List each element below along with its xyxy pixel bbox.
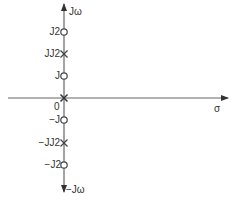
marker-label-neg-jj2: −JJ2 — [39, 138, 60, 148]
zero-marker-j — [61, 73, 67, 79]
zero-marker-j2 — [61, 29, 67, 35]
marker-label-j: J — [55, 71, 60, 81]
zero-marker-neg-j — [61, 117, 67, 123]
marker-label-j2: J2 — [49, 27, 60, 37]
pole-zero-diagram — [0, 0, 238, 207]
sigma-axis-label: σ — [214, 104, 220, 114]
marker-label-jj2: JJ2 — [44, 49, 60, 59]
marker-label-neg-j: −J — [49, 115, 60, 125]
zero-marker-neg-j2 — [61, 162, 67, 168]
jw-axis-top-label: Jω — [69, 7, 82, 17]
marker-label-neg-j2: −J2 — [45, 160, 61, 170]
origin-label: 0 — [54, 102, 60, 112]
jw-axis-bottom-label: −Jω — [66, 185, 85, 195]
